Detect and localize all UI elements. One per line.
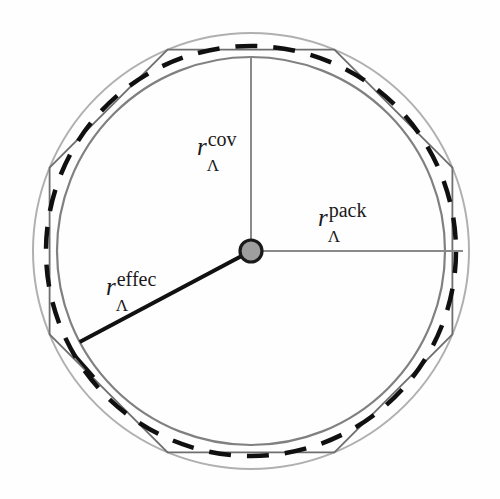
label-pack-subscript: Λ: [328, 228, 340, 245]
label-cov-subscript: Λ: [207, 157, 219, 174]
label-pack-superscript: pack: [329, 200, 367, 220]
label-r-lambda-cov: rΛcov: [197, 134, 207, 159]
diagram-canvas: [0, 0, 500, 499]
label-effec-subscript: Λ: [116, 297, 128, 314]
label-cov-symbol: r: [197, 133, 207, 160]
radii-diagram-figure: rΛcov rΛpack rΛeffec: [0, 0, 500, 499]
label-cov-superscript: cov: [208, 129, 237, 149]
label-pack-symbol: r: [318, 204, 328, 231]
label-effec-superscript: effec: [117, 269, 157, 289]
label-r-lambda-effec: rΛeffec: [106, 274, 116, 299]
label-effec-symbol: r: [106, 273, 116, 300]
center-dot: [240, 240, 262, 262]
effec-radius-endcap: [72, 352, 94, 377]
label-r-lambda-pack: rΛpack: [318, 205, 328, 230]
